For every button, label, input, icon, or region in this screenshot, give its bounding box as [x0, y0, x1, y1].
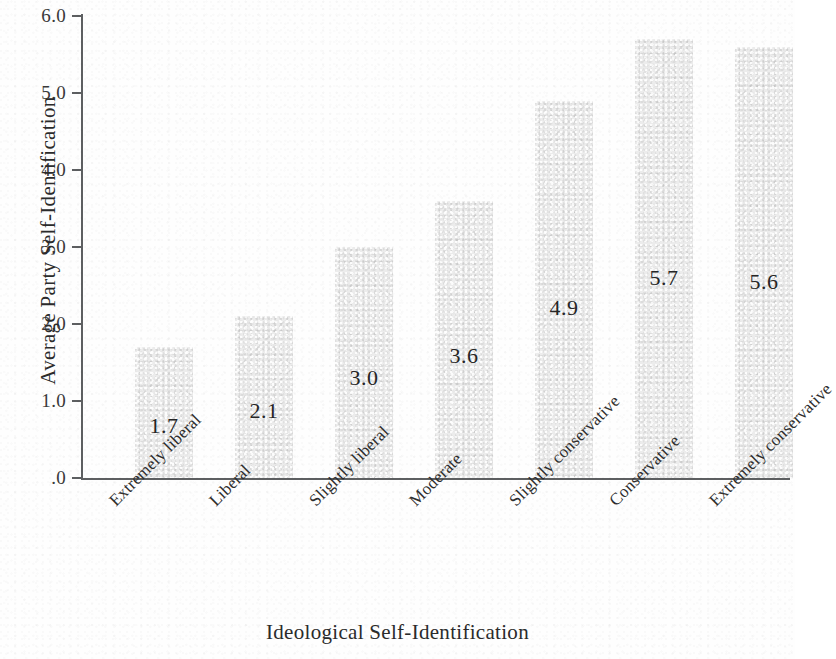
bar — [235, 316, 293, 478]
bar-value-label: 4.9 — [529, 297, 599, 319]
y-axis-tick — [72, 400, 82, 402]
y-axis-tick — [72, 246, 82, 248]
bar-value-label: 5.7 — [629, 267, 699, 289]
bar — [735, 47, 793, 478]
bar-value-label: 3.6 — [429, 345, 499, 367]
bar — [435, 201, 493, 478]
y-axis-tick — [72, 92, 82, 94]
y-axis-tick — [72, 169, 82, 171]
bar-value-label: 2.1 — [229, 400, 299, 422]
y-axis-tick — [72, 477, 82, 479]
x-axis-title: Ideological Self-Identification — [0, 622, 795, 643]
y-axis-tick — [72, 323, 82, 325]
y-axis-tick-label: .0 — [0, 468, 66, 487]
y-axis-title: Average Party Self-Identification — [38, 61, 59, 421]
bar-value-label: 1.7 — [129, 415, 199, 437]
y-axis-tick — [72, 15, 82, 17]
bar-value-label: 5.6 — [729, 271, 799, 293]
bar — [635, 39, 693, 478]
bar-value-label: 3.0 — [329, 367, 399, 389]
y-axis-tick-label: 6.0 — [0, 6, 66, 25]
x-axis-category-label: Liberal — [206, 461, 254, 509]
